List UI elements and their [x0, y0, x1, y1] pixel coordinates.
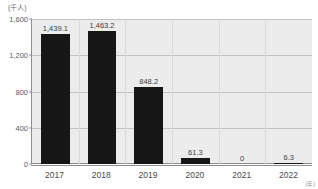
x-tick-label: 2021 [218, 166, 265, 186]
bar-value-label: 61.3 [188, 148, 203, 157]
bar-value-label: 1,463.2 [89, 21, 114, 30]
bar-column: 848.2 [125, 19, 172, 164]
bar: 848.2 [134, 87, 163, 164]
bar: 1,439.1 [41, 34, 70, 164]
y-tick-label: 400 [15, 123, 28, 132]
y-tick-label: 0 [24, 160, 28, 169]
bar: 61.3 [181, 158, 210, 164]
plot-area: 04008001,2001,600 1,439.11,463.2848.261.… [31, 19, 312, 164]
bar-value-label: 0 [240, 154, 244, 163]
bar-column: 1,463.2 [79, 19, 126, 164]
x-axis-unit-label: (年) [305, 180, 315, 188]
x-tick-label: 2018 [78, 166, 125, 186]
x-tick-label: 2017 [31, 166, 78, 186]
bar-column: 0 [219, 19, 266, 164]
bar-column: 6.3 [265, 19, 312, 164]
bar-value-label: 1,439.1 [43, 24, 68, 33]
x-tick-label: 2019 [125, 166, 172, 186]
x-axis-labels: 201720182019202020212022 [31, 165, 312, 186]
bar-series: 1,439.11,463.2848.261.306.3 [32, 19, 312, 164]
y-tick-label: 1,600 [9, 15, 28, 24]
bar-value-label: 6.3 [283, 153, 293, 162]
y-tick-label: 1,200 [9, 51, 28, 60]
x-tick-label: 2020 [171, 166, 218, 186]
bar-column: 61.3 [172, 19, 219, 164]
y-tick-label: 800 [15, 87, 28, 96]
bar: 1,463.2 [88, 31, 117, 164]
bar-chart: (千人) 04008001,2001,600 1,439.11,463.2848… [0, 0, 318, 189]
bar: 6.3 [274, 163, 303, 164]
bar-column: 1,439.1 [32, 19, 79, 164]
y-axis-unit-label: (千人) [8, 2, 27, 12]
bar-value-label: 848.2 [139, 77, 158, 86]
